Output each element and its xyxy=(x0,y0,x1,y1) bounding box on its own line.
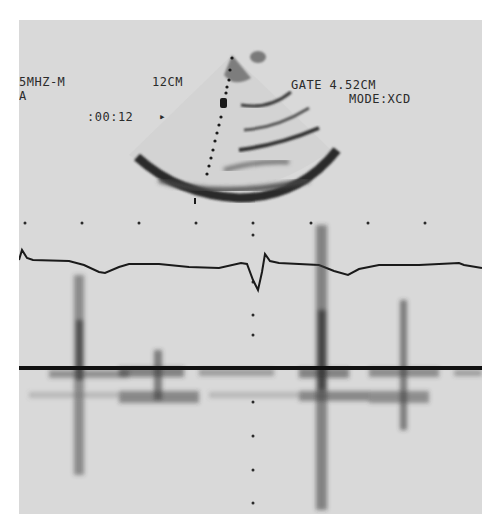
time-label: :00:12 xyxy=(87,110,133,124)
doppler-baseline xyxy=(19,366,482,370)
ecg-trace xyxy=(19,250,482,290)
ultrasound-graphics xyxy=(19,20,482,514)
depth-label: 12CM xyxy=(152,75,183,89)
ultrasound-display: 5MHZ-M A 12CM :00:12 ▸ GATE 4.52CM MODE:… xyxy=(19,20,482,514)
probe-sub-label: A xyxy=(19,89,27,103)
probe-indicator-dot xyxy=(250,51,266,63)
sector-image xyxy=(129,51,337,204)
probe-label: 5MHZ-M xyxy=(19,75,65,89)
gate-label: GATE 4.52CM xyxy=(291,78,376,92)
mode-label: MODE:XCD xyxy=(349,92,411,106)
time-marker-icon: ▸ xyxy=(159,110,166,124)
